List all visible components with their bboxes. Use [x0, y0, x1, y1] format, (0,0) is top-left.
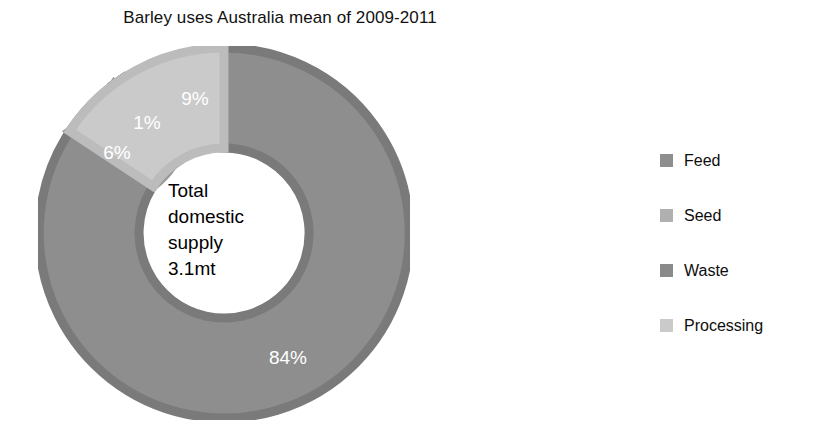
- legend-label-processing: Processing: [684, 318, 763, 334]
- slice-label-seed: 6%: [103, 142, 131, 163]
- legend-item-processing[interactable]: Processing: [660, 298, 830, 353]
- legend-label-seed: Seed: [684, 208, 721, 224]
- legend-item-waste[interactable]: Waste: [660, 243, 830, 298]
- chart-legend: Feed Seed Waste Processing: [660, 133, 830, 353]
- donut-svg: 84% 6% 1% 9%: [38, 46, 410, 420]
- legend-item-feed[interactable]: Feed: [660, 133, 830, 188]
- donut-plot-area: 84% 6% 1% 9%: [38, 46, 410, 420]
- chart-title: Barley uses Australia mean of 2009-2011: [0, 8, 560, 28]
- legend-label-feed: Feed: [684, 153, 720, 169]
- legend-swatch-seed: [660, 209, 673, 222]
- donut-chart-figure: Barley uses Australia mean of 2009-2011 …: [0, 0, 834, 442]
- legend-item-seed[interactable]: Seed: [660, 188, 830, 243]
- slice-label-processing: 9%: [181, 88, 209, 109]
- slice-label-feed: 84%: [269, 347, 307, 368]
- legend-swatch-waste: [660, 264, 673, 277]
- legend-label-waste: Waste: [684, 263, 729, 279]
- slice-label-waste: 1%: [133, 112, 161, 133]
- legend-swatch-processing: [660, 319, 673, 332]
- legend-swatch-feed: [660, 154, 673, 167]
